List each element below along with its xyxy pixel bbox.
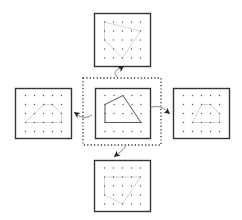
grid-dot [113,95,114,96]
grid-dot [140,176,141,177]
grid-dot [104,167,105,168]
grid-dot [113,122,114,123]
panel-bottom [95,161,151,212]
grid-dot [140,57,141,58]
arrow-to-left [72,110,92,118]
grid-dot [104,21,105,22]
grid-dot [131,176,132,177]
grid-dot [131,21,132,22]
grid-dot [113,48,114,49]
grid-dot [140,113,141,114]
grid-dot [113,194,114,195]
grid-dot [122,167,123,168]
grid-dot [122,113,123,114]
grid-dot [122,48,123,49]
grid-dot [34,95,35,96]
grid-dot [210,95,211,96]
grid-dot [34,104,35,105]
grid-dot [25,95,26,96]
grid-dot [122,57,123,58]
grid-dot [131,113,132,114]
grid-dot [113,57,114,58]
arrow-to-bottom [112,145,126,159]
grid-dot [113,185,114,186]
grid-dot [104,57,105,58]
grid-dot [104,48,105,49]
grid-dot [43,104,44,105]
grid-dot [131,30,132,31]
grid-dot [113,176,114,177]
grid-dot [192,131,193,132]
grid-dot [25,104,26,105]
arrowhead-icon [112,151,120,159]
grid-dot [183,104,184,105]
grid-dot [131,167,132,168]
grid-dot [122,176,123,177]
grid-dot [183,131,184,132]
panel-right [174,89,230,139]
grid-dot [131,95,132,96]
grid-dot [34,131,35,132]
grid-dot [104,185,105,186]
grid-dot [34,113,35,114]
grid-dot [104,176,105,177]
grid-dot [140,30,141,31]
grid-dot [140,104,141,105]
grid-dot [113,21,114,22]
grid-dot [104,39,105,40]
grid-dot [61,122,62,123]
grid-dot [192,95,193,96]
grid-dot [43,113,44,114]
grid-dot [201,113,202,114]
panel-top [95,14,151,67]
grid-dot [104,95,105,96]
panel-left [16,89,72,139]
grid-dot [61,95,62,96]
grid-dot [122,104,123,105]
grid-dot [131,194,132,195]
grid-panels [16,14,230,212]
grid-dot [131,203,132,204]
grid-dot [61,113,62,114]
grid-dot [104,194,105,195]
transformation-diagram [0,0,242,220]
grid-dot [183,95,184,96]
grid-dot [113,167,114,168]
grid-dot [104,104,105,105]
grid-dot [192,122,193,123]
grid-dot [43,122,44,123]
grid-dot [131,104,132,105]
grid-dot [104,131,105,132]
grid-dot [131,131,132,132]
grid-dot [131,185,132,186]
grid-dot [104,113,105,114]
grid-dot [52,95,53,96]
grid-dot [140,95,141,96]
grid-dot [122,194,123,195]
grid-dot [113,203,114,204]
grid-dot [52,131,53,132]
grid-dot [122,30,123,31]
grid-dot [210,122,211,123]
grid-dot [25,113,26,114]
grid-dot [140,167,141,168]
grid-dot [210,104,211,105]
grid-dot [140,48,141,49]
grid-dot [140,203,141,204]
grid-dot [140,131,141,132]
grid-dot [104,122,105,123]
grid-dot [34,122,35,123]
grid-dot [219,104,220,105]
grid-dot [122,21,123,22]
grid-dot [192,113,193,114]
grid-dot [183,113,184,114]
grid-dot [140,185,141,186]
grid-dot [122,39,123,40]
grid-dot [192,104,193,105]
grid-dot [43,131,44,132]
grid-dot [43,95,44,96]
panel-center [96,89,151,139]
grid-dot [201,104,202,105]
grid-dot [140,122,141,123]
grid-dot [219,122,220,123]
